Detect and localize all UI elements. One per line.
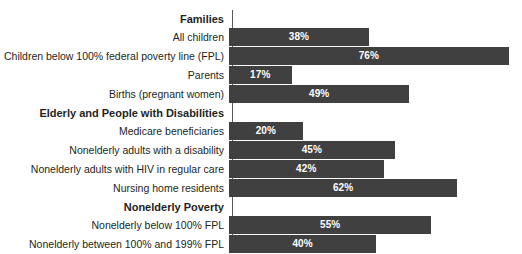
chart-group-row: Families (0, 10, 522, 27)
chart-group-row: Nonelderly Poverty (0, 198, 522, 215)
bar-value-label: 20% (229, 122, 303, 140)
bar-value-label: 38% (229, 28, 369, 46)
chart-bar-row: Nonelderly adults with a disability45% (0, 141, 522, 159)
chart-bar-row: All children38% (0, 28, 522, 46)
bar-track (229, 104, 522, 122)
bar-track: 40% (229, 235, 522, 253)
chart-bar-row: Nonelderly adults with HIV in regular ca… (0, 160, 522, 178)
category-label: Nonelderly adults with HIV in regular ca… (0, 163, 228, 175)
category-label: Medicare beneficiaries (0, 125, 228, 137)
chart-bar-row: Medicare beneficiaries20% (0, 122, 522, 140)
bar-track: 42% (229, 160, 522, 178)
chart-group-row: Elderly and People with Disabilities (0, 104, 522, 121)
chart-bar-row: Parents17% (0, 66, 522, 84)
category-label: Births (pregnant women) (0, 88, 228, 100)
bar-track: 45% (229, 141, 522, 159)
group-heading-label: Families (0, 13, 228, 25)
category-label: All children (0, 31, 228, 43)
bar-value-label: 76% (229, 47, 509, 65)
category-label: Nonelderly between 100% and 199% FPL (0, 238, 228, 250)
bar-value-label: 49% (229, 85, 409, 103)
group-heading-label: Nonelderly Poverty (0, 201, 228, 213)
category-label: Parents (0, 69, 228, 81)
bar-value-label: 17% (229, 66, 292, 84)
bar-value-label: 42% (229, 160, 384, 178)
bar-track (229, 198, 522, 216)
bar-value-label: 40% (229, 235, 376, 253)
bar-value-label: 45% (229, 141, 395, 159)
chart-bar-row: Nonelderly below 100% FPL55% (0, 216, 522, 234)
category-label: Children below 100% federal poverty line… (0, 50, 228, 62)
bar-value-label: 55% (229, 216, 431, 234)
category-label: Nonelderly adults with a disability (0, 144, 228, 156)
bar-track: 49% (229, 85, 522, 103)
group-heading-label: Elderly and People with Disabilities (0, 107, 228, 119)
bar-value-label: 62% (229, 179, 457, 197)
chart-bar-row: Births (pregnant women)49% (0, 85, 522, 103)
category-label: Nonelderly below 100% FPL (0, 219, 228, 231)
chart-rows: FamiliesAll children38%Children below 10… (0, 10, 522, 254)
bar-track (229, 10, 522, 28)
chart-bar-row: Nonelderly between 100% and 199% FPL40% (0, 235, 522, 253)
bar-track: 20% (229, 122, 522, 140)
bar-track: 38% (229, 28, 522, 46)
category-label: Nursing home residents (0, 182, 228, 194)
chart-bar-row: Children below 100% federal poverty line… (0, 47, 522, 65)
chart-bar-row: Nursing home residents62% (0, 179, 522, 197)
bar-track: 55% (229, 216, 522, 234)
bar-track: 62% (229, 179, 522, 197)
bar-track: 17% (229, 66, 522, 84)
bar-track: 76% (229, 47, 522, 65)
